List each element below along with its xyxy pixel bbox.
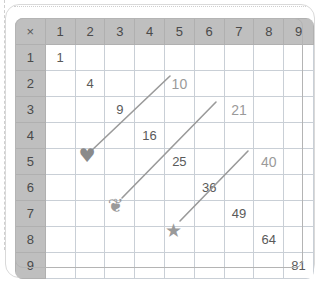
cell-r9-c7[interactable] (224, 253, 254, 279)
row-header-2: 2 (16, 71, 46, 97)
cell-r9-c4[interactable] (135, 253, 165, 279)
cell-r2-c6[interactable] (194, 71, 224, 97)
cell-r7-c3[interactable] (105, 201, 135, 227)
cell-r9-c5[interactable] (164, 253, 194, 279)
cell-r1-c1[interactable]: 1 (45, 45, 75, 71)
cell-r7-c8[interactable] (254, 201, 284, 227)
cell-r5-c6[interactable] (194, 149, 224, 175)
cell-r1-c2[interactable] (75, 45, 105, 71)
cell-r7-c6[interactable] (194, 201, 224, 227)
cell-r3-c9[interactable] (284, 97, 314, 123)
cell-r3-c6[interactable] (194, 97, 224, 123)
table-row: 636 (16, 175, 314, 201)
cell-r5-c3[interactable] (105, 149, 135, 175)
cell-r1-c8[interactable] (254, 45, 284, 71)
cell-r3-c7[interactable]: 21 (224, 97, 254, 123)
cell-r2-c2[interactable]: 4 (75, 71, 105, 97)
cell-r3-c5[interactable] (164, 97, 194, 123)
cell-r1-c7[interactable] (224, 45, 254, 71)
cell-r9-c6[interactable] (194, 253, 224, 279)
cell-r5-c7[interactable] (224, 149, 254, 175)
cell-r9-c2[interactable] (75, 253, 105, 279)
cell-r3-c4[interactable] (135, 97, 165, 123)
cell-r3-c8[interactable] (254, 97, 284, 123)
cell-r4-c8[interactable] (254, 123, 284, 149)
cell-r2-c3[interactable] (105, 71, 135, 97)
cell-r8-c9[interactable] (284, 227, 314, 253)
row-header-3: 3 (16, 97, 46, 123)
cell-r6-c2[interactable] (75, 175, 105, 201)
cell-r4-c7[interactable] (224, 123, 254, 149)
cell-r2-c1[interactable] (45, 71, 75, 97)
cell-r6-c7[interactable] (224, 175, 254, 201)
row-header-5: 5 (16, 149, 46, 175)
cell-r4-c3[interactable] (105, 123, 135, 149)
cell-r2-c9[interactable] (284, 71, 314, 97)
cell-r6-c6[interactable]: 36 (194, 175, 224, 201)
cell-r1-c6[interactable] (194, 45, 224, 71)
cell-r6-c1[interactable] (45, 175, 75, 201)
cell-r3-c1[interactable] (45, 97, 75, 123)
cell-r6-c4[interactable] (135, 175, 165, 201)
cell-r7-c4[interactable] (135, 201, 165, 227)
cell-r7-c7[interactable]: 49 (224, 201, 254, 227)
table-row: 3921 (16, 97, 314, 123)
cell-r8-c5[interactable] (164, 227, 194, 253)
cell-r8-c4[interactable] (135, 227, 165, 253)
column-header-8: 8 (254, 19, 284, 45)
cell-r5-c8[interactable]: 40 (254, 149, 284, 175)
cell-r5-c9[interactable] (284, 149, 314, 175)
cell-r5-c4[interactable] (135, 149, 165, 175)
cell-r8-c3[interactable] (105, 227, 135, 253)
cell-r6-c9[interactable] (284, 175, 314, 201)
column-header-4: 4 (135, 19, 165, 45)
row-header-6: 6 (16, 175, 46, 201)
column-header-7: 7 (224, 19, 254, 45)
table-row: 981 (16, 253, 314, 279)
cell-r1-c9[interactable] (284, 45, 314, 71)
column-header-2: 2 (75, 19, 105, 45)
cell-r5-c1[interactable] (45, 149, 75, 175)
cell-r2-c7[interactable] (224, 71, 254, 97)
cell-r8-c6[interactable] (194, 227, 224, 253)
cell-r2-c5[interactable]: 10 (164, 71, 194, 97)
cell-r5-c5[interactable]: 25 (164, 149, 194, 175)
cell-r7-c5[interactable] (164, 201, 194, 227)
cell-r9-c9[interactable]: 81 (284, 253, 314, 279)
dashed-margin-line (4, 0, 5, 250)
cell-r8-c7[interactable] (224, 227, 254, 253)
cell-r1-c3[interactable] (105, 45, 135, 71)
cell-r8-c2[interactable] (75, 227, 105, 253)
cell-r2-c4[interactable] (135, 71, 165, 97)
cell-r7-c2[interactable] (75, 201, 105, 227)
column-header-1: 1 (45, 19, 75, 45)
cell-r3-c2[interactable] (75, 97, 105, 123)
table-header-row: ×123456789 (16, 19, 314, 45)
cell-r9-c8[interactable] (254, 253, 284, 279)
cell-r7-c1[interactable] (45, 201, 75, 227)
cell-r4-c6[interactable] (194, 123, 224, 149)
table-row: 749 (16, 201, 314, 227)
cell-r4-c1[interactable] (45, 123, 75, 149)
cell-r9-c1[interactable] (45, 253, 75, 279)
cell-r6-c3[interactable] (105, 175, 135, 201)
table-row: 11 (16, 45, 314, 71)
cell-r3-c3[interactable]: 9 (105, 97, 135, 123)
cell-r4-c2[interactable] (75, 123, 105, 149)
cell-r6-c8[interactable] (254, 175, 284, 201)
cell-r9-c3[interactable] (105, 253, 135, 279)
row-header-9: 9 (16, 253, 46, 279)
table-row: 416 (16, 123, 314, 149)
cell-r2-c8[interactable] (254, 71, 284, 97)
cell-r5-c2[interactable] (75, 149, 105, 175)
cell-r7-c9[interactable] (284, 201, 314, 227)
cell-r4-c5[interactable] (164, 123, 194, 149)
cell-r8-c8[interactable]: 64 (254, 227, 284, 253)
cell-r6-c5[interactable] (164, 175, 194, 201)
cell-r1-c4[interactable] (135, 45, 165, 71)
cell-r8-c1[interactable] (45, 227, 75, 253)
cell-r4-c9[interactable] (284, 123, 314, 149)
cell-r1-c5[interactable] (164, 45, 194, 71)
column-header-5: 5 (164, 19, 194, 45)
cell-r4-c4[interactable]: 16 (135, 123, 165, 149)
